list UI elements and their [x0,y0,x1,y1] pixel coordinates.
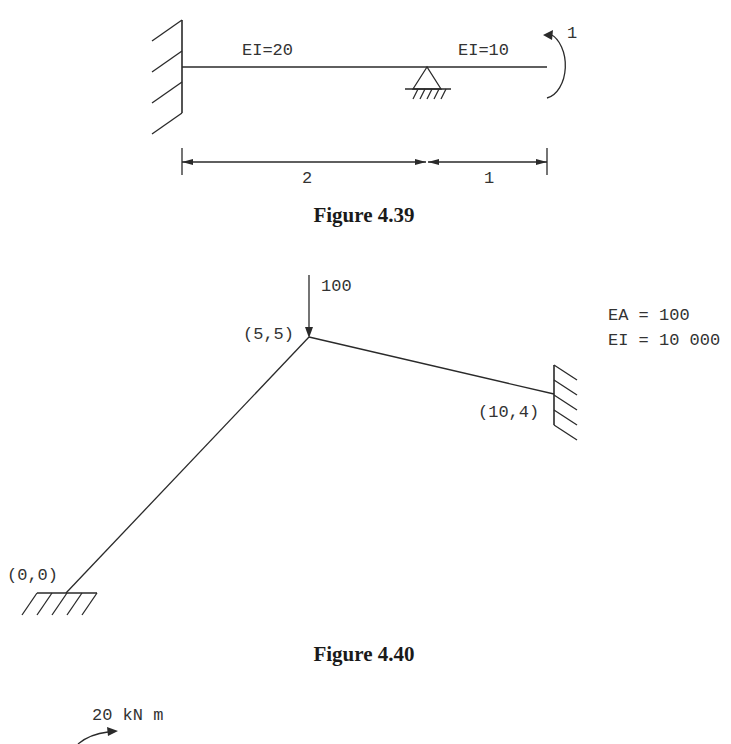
ground-support-icon [22,593,97,615]
dim-left-label: 2 [302,169,312,188]
figure-next-partial: 20 kN m [78,706,163,744]
fixed-wall-icon [554,365,577,440]
moment-arrow-icon [78,727,118,744]
figure-caption: Figure 4.39 [313,203,414,227]
figure-4-39: 1 EI=20 EI=10 2 1 Figure 4.39 [152,20,577,227]
fixed-wall-icon [152,20,182,134]
node-base-label: (0,0) [7,566,58,585]
moment-arrow-icon [543,30,565,98]
moment-label: 20 kN m [92,706,163,725]
property-ei-label: EI = 10 000 [608,331,720,350]
pin-support-icon [405,67,451,99]
member-right [309,337,554,394]
node-right-label: (10,4) [478,403,539,422]
stiffness-left-label: EI=20 [242,41,293,60]
property-ea-label: EA = 100 [608,306,690,325]
load-label: 100 [321,277,352,296]
applied-moment-label: 1 [567,24,577,43]
down-arrow-icon [305,275,313,338]
figure-4-40: 100 (5,5) (10,4) EA = 100 EI = 10 000 (0… [7,275,720,666]
dim-right-label: 1 [484,169,494,188]
diagram-canvas: 1 EI=20 EI=10 2 1 Figure 4.39 100 (5,5) [0,0,731,744]
node-apex-label: (5,5) [243,325,294,344]
member-inclined [66,337,309,593]
stiffness-right-label: EI=10 [458,41,509,60]
figure-caption: Figure 4.40 [313,642,414,666]
